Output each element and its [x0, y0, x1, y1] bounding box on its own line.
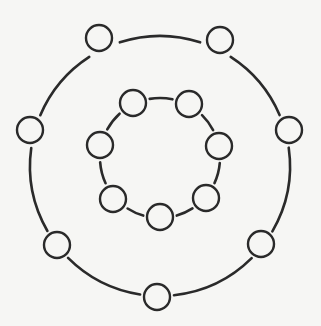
- ring-node: [147, 204, 173, 230]
- ring-node: [17, 117, 43, 143]
- concentric-rings-diagram: [0, 0, 321, 326]
- ring-node: [44, 232, 70, 258]
- ring-node: [193, 185, 219, 211]
- ring-node: [207, 27, 233, 53]
- ring-edge: [40, 57, 89, 115]
- ring-node: [86, 25, 112, 51]
- ring-edge: [68, 258, 140, 295]
- ring-edge: [177, 208, 193, 215]
- ring-edge: [107, 114, 119, 130]
- ring-node: [176, 91, 202, 117]
- ring-edge: [120, 36, 200, 42]
- inner-ring: [87, 90, 232, 230]
- ring-edge: [100, 162, 105, 183]
- ring-edge: [231, 57, 280, 115]
- ring-edge: [174, 258, 252, 295]
- ring-edge: [150, 98, 173, 99]
- ring-edge: [30, 148, 47, 231]
- ring-node: [248, 231, 274, 257]
- ring-edge: [202, 115, 213, 130]
- outer-ring: [17, 25, 302, 310]
- ring-edge: [214, 163, 219, 183]
- ring-node: [206, 133, 232, 159]
- ring-node: [144, 284, 170, 310]
- ring-edge: [272, 148, 290, 232]
- ring-edge: [128, 209, 144, 216]
- ring-node: [120, 90, 146, 116]
- diagram-canvas: [0, 0, 321, 326]
- ring-node: [100, 186, 126, 212]
- ring-node: [276, 117, 302, 143]
- ring-node: [87, 132, 113, 158]
